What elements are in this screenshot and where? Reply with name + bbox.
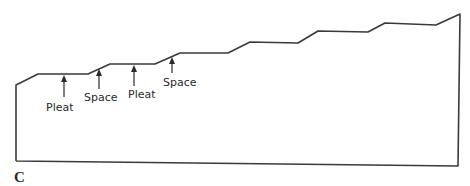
fabric-outline [16,14,460,166]
annotations: PleatSpacePleatSpace [46,57,197,114]
annotation-label: Space [84,91,118,104]
annotation-pleat: Pleat [128,65,156,101]
annotation-space: Space [163,57,197,89]
annotation-label: Space [163,76,197,89]
annotation-label: Pleat [46,101,74,114]
pleat-diagram: PleatSpacePleatSpace C [0,0,470,186]
arrow-up-icon [131,65,137,72]
arrow-up-icon [61,75,67,82]
annotation-label: Pleat [128,88,156,101]
figure-label: C [14,169,25,185]
annotation-pleat: Pleat [46,75,74,114]
